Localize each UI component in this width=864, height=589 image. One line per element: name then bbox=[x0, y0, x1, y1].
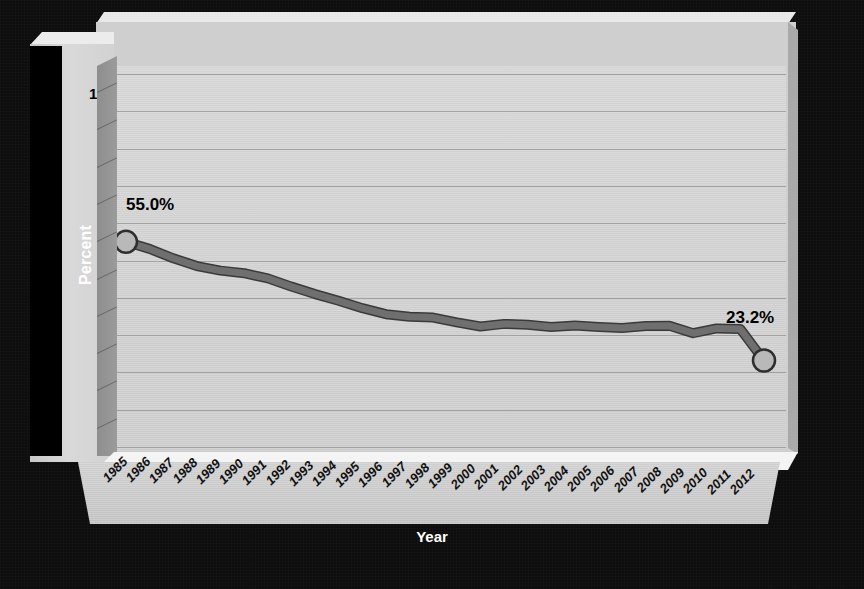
yaxis-title-panel: Percent bbox=[30, 46, 62, 456]
depth-line-70 bbox=[97, 194, 117, 205]
depth-line-100 bbox=[97, 82, 117, 93]
depth-line-40 bbox=[97, 306, 117, 317]
data-line-outline bbox=[126, 242, 764, 361]
xaxis-title: Year bbox=[0, 528, 864, 545]
depth-line-30 bbox=[97, 344, 117, 355]
data-marker-1985 bbox=[115, 231, 137, 253]
chart-screenshot: 55.0% 23.2% 1009080706050403020100 Perce… bbox=[0, 0, 864, 589]
data-line-layer bbox=[114, 66, 786, 455]
annotation-start-value: 55.0% bbox=[126, 195, 174, 215]
depth-line-20 bbox=[97, 381, 117, 392]
yaxis-title: Percent bbox=[77, 195, 95, 315]
depth-line-90 bbox=[97, 120, 117, 131]
data-line bbox=[126, 242, 764, 361]
yaxis-depth-wall bbox=[97, 56, 117, 456]
backwall-right-bevel bbox=[788, 22, 798, 454]
data-marker-2012 bbox=[753, 350, 775, 372]
depth-line-80 bbox=[97, 157, 117, 168]
depth-line-60 bbox=[97, 232, 117, 243]
depth-line-50 bbox=[97, 269, 117, 280]
annotation-end-value: 23.2% bbox=[726, 308, 774, 328]
depth-line-10 bbox=[97, 418, 117, 429]
